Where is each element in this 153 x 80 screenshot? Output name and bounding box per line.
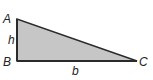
triangle-diagram: A h B b C [0, 0, 153, 80]
vertex-label-b: B [3, 55, 11, 69]
vertex-label-a: A [2, 12, 11, 26]
triangle-abc [17, 19, 137, 61]
side-label-h: h [8, 33, 15, 47]
vertex-label-c: C [139, 55, 148, 69]
side-label-b: b [72, 64, 79, 78]
